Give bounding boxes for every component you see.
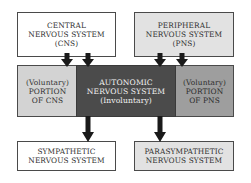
- voluntary-cns-line-2: PORTION: [26, 87, 69, 96]
- pns-line-2: NERVOUS SYSTEM: [146, 30, 222, 39]
- cns-line-1: CENTRAL: [28, 21, 104, 30]
- voluntary-pns-line-2: PORTION: [183, 87, 226, 96]
- arrow-ans-to-parasympathetic: [154, 116, 166, 142]
- pns-box: PERIPHERAL NERVOUS SYSTEM (PNS): [134, 12, 234, 57]
- parasympathetic-line-2: NERVOUS SYSTEM: [144, 156, 223, 165]
- sympathetic-line-1: SYMPATHETIC: [28, 147, 104, 156]
- parasympathetic-box: PARASYMPATHETIC NERVOUS SYSTEM: [134, 141, 234, 171]
- cns-line-2: NERVOUS SYSTEM: [28, 30, 104, 39]
- cns-box: CENTRAL NERVOUS SYSTEM (CNS): [17, 12, 116, 57]
- arrow-cns-to-ans: [82, 53, 94, 67]
- voluntary-cns-box: (Voluntary) PORTION OF CNS: [17, 65, 77, 117]
- arrow-pns-to-ans: [154, 53, 166, 67]
- ans-line-3: (Involuntary): [87, 96, 165, 105]
- voluntary-pns-line-3: OF PNS: [183, 96, 226, 105]
- cns-line-3: (CNS): [28, 39, 104, 48]
- arrow-ans-to-sympathetic: [82, 116, 94, 142]
- pns-line-3: (PNS): [146, 39, 222, 48]
- voluntary-cns-line-1: (Voluntary): [26, 78, 69, 87]
- voluntary-pns-box: (Voluntary) PORTION OF PNS: [176, 65, 234, 117]
- ans-line-2: NERVOUS SYSTEM: [87, 87, 165, 96]
- sympathetic-box: SYMPATHETIC NERVOUS SYSTEM: [17, 141, 116, 171]
- ans-line-1: AUTONOMIC: [87, 78, 165, 87]
- voluntary-pns-line-1: (Voluntary): [183, 78, 226, 87]
- arrow-cns-to-voluntary-cns: [61, 53, 73, 67]
- autonomic-nervous-system-box: AUTONOMIC NERVOUS SYSTEM (Involuntary): [76, 65, 176, 117]
- sympathetic-line-2: NERVOUS SYSTEM: [28, 156, 104, 165]
- arrow-pns-to-voluntary-pns: [176, 53, 188, 67]
- voluntary-cns-line-3: OF CNS: [26, 96, 69, 105]
- parasympathetic-line-1: PARASYMPATHETIC: [144, 147, 223, 156]
- pns-line-1: PERIPHERAL: [146, 21, 222, 30]
